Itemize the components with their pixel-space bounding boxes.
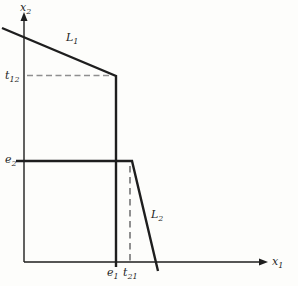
figure-background bbox=[0, 0, 298, 286]
figure: x2x1L1L2t12e2e1t21 bbox=[0, 0, 298, 286]
figure-svg: x2x1L1L2t12e2e1t21 bbox=[0, 0, 298, 286]
